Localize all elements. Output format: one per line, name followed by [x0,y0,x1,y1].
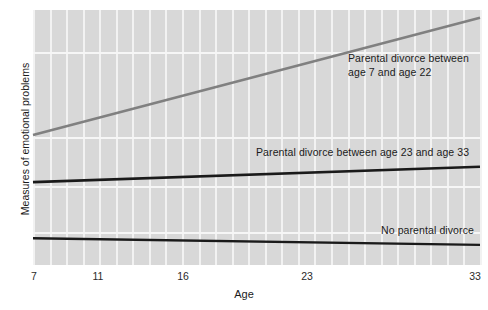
x-axis-tick-16: 16 [177,270,189,282]
x-axis-tick-11: 11 [93,270,104,282]
vertical-gridline [480,10,482,265]
y-axis-title: Measures of emotional problems [19,14,31,264]
series-line-2 [33,167,480,182]
annotation-no-parental-divorce: No parental divorce [381,224,474,238]
x-axis-title: Age [0,288,488,300]
x-axis-tick-33: 33 [469,270,481,282]
annotation-divorce-age-7-22: Parental divorce between age 7 and age 2… [348,52,469,79]
x-axis-tick-7: 7 [31,270,37,282]
emotional-problems-line-chart: Parental divorce between age 7 and age 2… [0,0,488,310]
series-line-3 [33,238,480,245]
x-axis-tick-23: 23 [301,270,313,282]
annotation-divorce-age-23-33: Parental divorce between age 23 and age … [256,146,469,160]
